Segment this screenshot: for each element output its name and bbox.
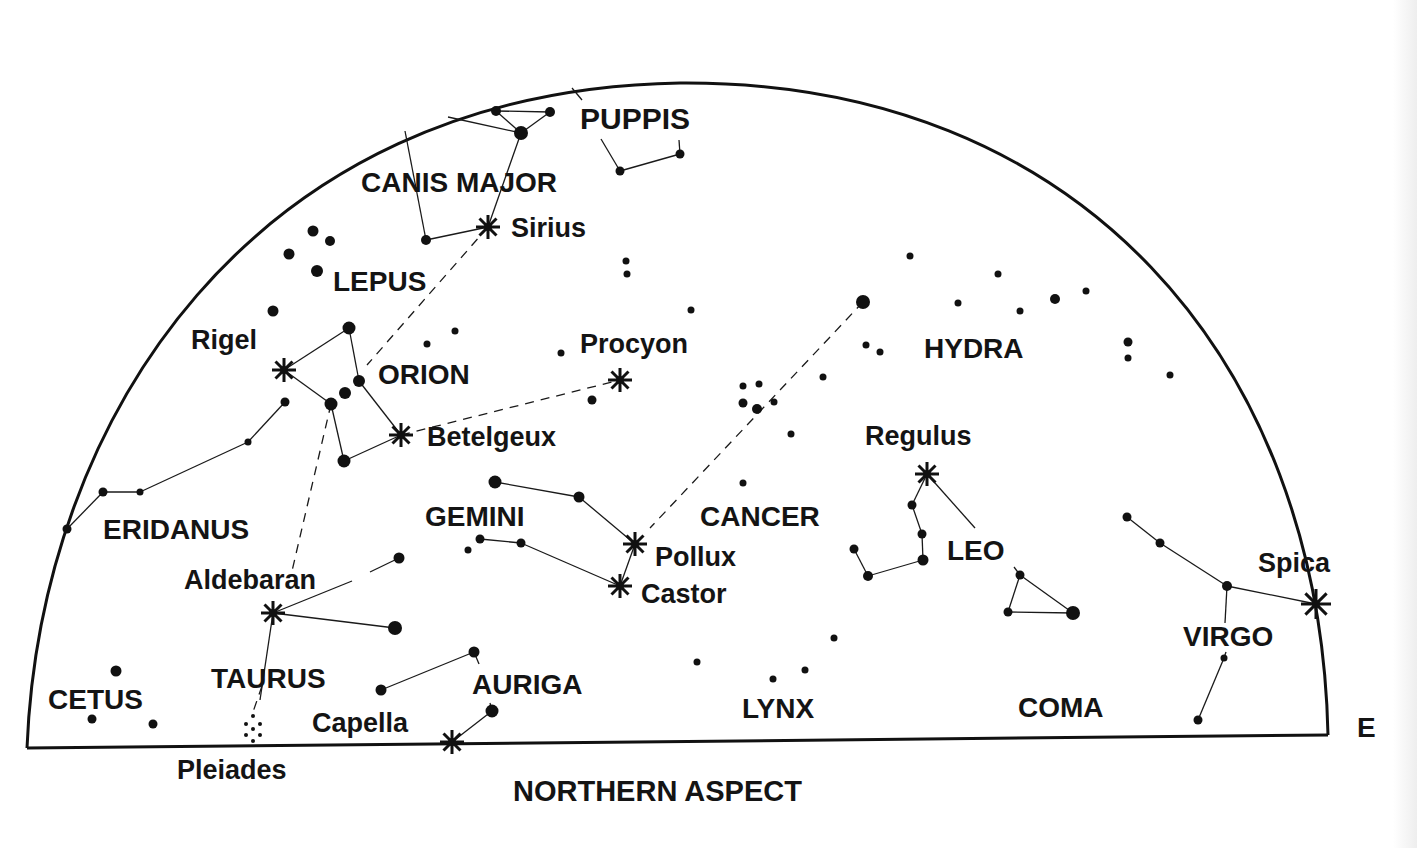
constellation-line bbox=[495, 482, 579, 497]
constellation-line bbox=[273, 613, 395, 628]
star-dot-icon bbox=[491, 106, 501, 116]
pleiades-dot-icon bbox=[258, 733, 262, 737]
star-dot-icon bbox=[856, 295, 870, 309]
constellation-label-cancer: CANCER bbox=[700, 501, 820, 532]
sky-dome-arc bbox=[27, 83, 1328, 748]
horizon-baseline bbox=[27, 735, 1328, 748]
bright-star-icon bbox=[476, 215, 500, 239]
bright-star-icon bbox=[608, 368, 632, 392]
constellation-label-cetus: CETUS bbox=[48, 684, 143, 715]
star-dot-icon bbox=[752, 404, 762, 414]
star-dot-icon bbox=[63, 525, 72, 534]
constellation-line bbox=[426, 227, 488, 240]
constellation-line bbox=[1020, 575, 1073, 613]
bright-star-icon bbox=[389, 423, 413, 447]
constellation-label-coma: COMA bbox=[1018, 692, 1104, 723]
constellation-label-orion: ORION bbox=[378, 359, 470, 390]
bright-star-icon bbox=[623, 532, 647, 556]
star-dot-icon bbox=[688, 307, 695, 314]
star-dot-icon bbox=[489, 476, 502, 489]
star-dot-icon bbox=[99, 488, 108, 497]
star-label-pleiades: Pleiades bbox=[177, 755, 287, 785]
star-dot-icon bbox=[1016, 571, 1025, 580]
constellation-label-canis-major: CANIS MAJOR bbox=[361, 167, 557, 198]
star-dot-icon bbox=[486, 705, 499, 718]
star-dot-icon bbox=[907, 253, 914, 260]
star-dot-icon bbox=[514, 126, 528, 140]
constellation-label-gemini: GEMINI bbox=[425, 501, 525, 532]
star-dot-icon bbox=[284, 249, 295, 260]
star-label-aldebaran: Aldebaran bbox=[184, 565, 316, 595]
pleiades-dot-icon bbox=[251, 727, 255, 731]
star-dot-icon bbox=[325, 398, 338, 411]
star-dot-icon bbox=[820, 374, 827, 381]
constellation-line bbox=[140, 442, 248, 492]
star-dot-icon bbox=[1221, 655, 1228, 662]
star-dot-icon bbox=[918, 530, 927, 539]
star-dot-icon bbox=[756, 381, 763, 388]
stars bbox=[63, 106, 1233, 729]
page-edge-shadow bbox=[1393, 0, 1417, 848]
star-dot-icon bbox=[802, 667, 809, 674]
star-dot-icon bbox=[616, 167, 625, 176]
star-dot-icon bbox=[149, 720, 158, 729]
star-label-sirius: Sirius bbox=[511, 213, 586, 243]
constellation-label-puppis: PUPPIS bbox=[580, 102, 690, 135]
pleiades-dot-icon bbox=[244, 722, 248, 726]
bright-star-icon bbox=[915, 462, 939, 486]
star-dot-icon bbox=[1004, 608, 1013, 617]
constellation-line bbox=[349, 328, 359, 381]
star-dot-icon bbox=[338, 455, 351, 468]
star-dot-icon bbox=[624, 271, 631, 278]
star-dot-icon bbox=[111, 666, 122, 677]
constellation-line bbox=[448, 117, 521, 133]
star-dot-icon bbox=[281, 398, 290, 407]
star-dot-icon bbox=[739, 399, 748, 408]
star-chart: PUPPISCANIS MAJORLEPUSORIONERIDANUSGEMIN… bbox=[0, 0, 1417, 848]
pleiades-dot-icon bbox=[244, 733, 248, 737]
bright-star-icon bbox=[261, 601, 285, 625]
constellation-line bbox=[344, 435, 401, 461]
star-dot-icon bbox=[771, 399, 778, 406]
pointer-dashed-lines bbox=[253, 227, 863, 712]
pleiades-dot-icon bbox=[258, 722, 262, 726]
star-label-betelgeux: Betelgeux bbox=[427, 422, 556, 452]
constellation-line bbox=[868, 560, 923, 576]
constellation-line bbox=[248, 402, 285, 442]
star-label-castor: Castor bbox=[641, 579, 727, 609]
star-dot-icon bbox=[469, 647, 480, 658]
constellation-label-eridanus: ERIDANUS bbox=[103, 514, 249, 545]
pleiades-dot-icon bbox=[251, 714, 255, 718]
constellation-line bbox=[381, 652, 474, 690]
constellation-line bbox=[480, 539, 521, 543]
constellation-line bbox=[496, 111, 550, 112]
constellation-line bbox=[912, 474, 927, 505]
star-dot-icon bbox=[376, 685, 387, 696]
star-dot-icon bbox=[545, 107, 555, 117]
star-label-rigel: Rigel bbox=[191, 325, 257, 355]
direction-east-label: E bbox=[1357, 712, 1376, 743]
constellation-line bbox=[1227, 586, 1316, 604]
horizon-outline bbox=[27, 83, 1328, 748]
star-dot-icon bbox=[517, 539, 526, 548]
star-dot-icon bbox=[877, 349, 884, 356]
star-dot-icon bbox=[325, 236, 335, 246]
star-dot-icon bbox=[137, 489, 144, 496]
constellation-line bbox=[1225, 586, 1227, 623]
star-dot-icon bbox=[574, 492, 585, 503]
star-dot-icon bbox=[308, 226, 319, 237]
star-dot-icon bbox=[908, 501, 917, 510]
star-dot-icon bbox=[1017, 308, 1024, 315]
constellation-label-hydra: HYDRA bbox=[924, 333, 1024, 364]
constellation-labels: PUPPISCANIS MAJORLEPUSORIONERIDANUSGEMIN… bbox=[48, 102, 1273, 724]
star-dot-icon bbox=[394, 553, 405, 564]
star-dot-icon bbox=[676, 150, 685, 159]
constellation-label-lepus: LEPUS bbox=[333, 266, 426, 297]
star-label-spica: Spica bbox=[1258, 548, 1331, 578]
star-dot-icon bbox=[1083, 288, 1090, 295]
constellation-line bbox=[1127, 517, 1160, 543]
star-dot-icon bbox=[1050, 294, 1060, 304]
star-dot-icon bbox=[788, 431, 795, 438]
star-dot-icon bbox=[421, 235, 431, 245]
star-dot-icon bbox=[452, 328, 459, 335]
